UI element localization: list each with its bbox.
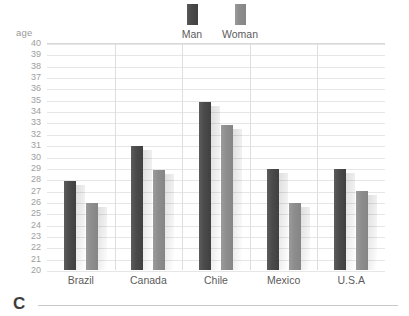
y-axis-tick-label: 22 [11,242,41,252]
y-axis-tick-label: 25 [11,208,41,218]
gridline-vertical [250,44,251,270]
y-axis-tick-label: 26 [11,197,41,207]
y-axis-tick-label: 21 [11,254,41,264]
chart-plot-wrapper [47,43,385,270]
legend-swatch-woman-icon [235,4,246,25]
gridline-horizontal [47,101,385,102]
x-axis-category-labels: BrazilCanadaChileMexicoU.S.A [47,274,385,292]
bar-usa-man[interactable] [334,169,346,270]
bar-shadow [279,173,288,270]
gridline-vertical [182,44,183,270]
gridline-vertical [115,44,116,270]
bar-usa-woman[interactable] [356,191,368,270]
gridline-horizontal [47,67,385,68]
footer-divider [38,305,398,306]
bar-chile-woman[interactable] [221,125,233,270]
x-axis-tick-label: Mexico [267,274,300,286]
legend-entry-man: Man [168,4,216,40]
legend-entry-woman: Woman [216,4,264,40]
x-axis-tick-label: U.S.A [337,274,364,286]
gridline-horizontal [47,55,385,56]
y-axis-tick-label: 31 [11,140,41,150]
x-axis-tick-label: Chile [204,274,228,286]
y-axis-tick-label: 37 [11,72,41,82]
y-axis-tick-label: 20 [11,265,41,275]
y-axis-tick-labels: 4039383736353433323130292827262524232221… [9,43,41,270]
legend-swatch-man-icon [187,4,198,25]
y-axis-title: age [16,27,32,38]
y-axis-tick-label: 28 [11,174,41,184]
bar-shadow [211,106,220,270]
gridline-horizontal [47,135,385,136]
gridline-horizontal [47,89,385,90]
gridline-horizontal [47,158,385,159]
y-axis-tick-label: 29 [11,163,41,173]
y-axis-tick-label: 24 [11,220,41,230]
x-axis-tick-label: Canada [130,274,167,286]
bar-canada-man[interactable] [131,146,143,270]
y-axis-tick-label: 35 [11,95,41,105]
x-axis-tick-label: Brazil [68,274,94,286]
y-axis-tick-label: 34 [11,106,41,116]
bar-shadow [346,173,355,270]
y-axis-tick-label: 23 [11,231,41,241]
bar-brazil-woman[interactable] [86,203,98,270]
y-axis-tick-label: 27 [11,186,41,196]
bar-mexico-man[interactable] [267,169,279,270]
bar-mexico-woman[interactable] [289,203,301,270]
bar-brazil-man[interactable] [64,181,76,270]
gridline-horizontal [47,78,385,79]
gridline-horizontal [47,271,385,272]
y-axis-tick-label: 39 [11,49,41,59]
gridline-horizontal [47,44,385,45]
chart-plot-area [47,43,385,270]
bar-canada-woman[interactable] [153,170,165,270]
gridline-vertical [317,44,318,270]
figure-letter-label: C [13,294,25,314]
gridline-horizontal [47,123,385,124]
y-axis-tick-label: 33 [11,117,41,127]
y-axis-tick-label: 30 [11,152,41,162]
y-axis-tick-label: 40 [11,38,41,48]
chart-legend: Man Woman [168,4,278,42]
legend-label-man: Man [168,28,216,40]
y-axis-tick-label: 36 [11,83,41,93]
bar-shadow [76,185,85,270]
legend-label-woman: Woman [216,28,264,40]
gridline-horizontal [47,112,385,113]
y-axis-tick-label: 32 [11,129,41,139]
bar-shadow [165,174,174,270]
bar-chile-man[interactable] [199,102,211,270]
y-axis-tick-label: 38 [11,61,41,71]
gridline-horizontal [47,146,385,147]
